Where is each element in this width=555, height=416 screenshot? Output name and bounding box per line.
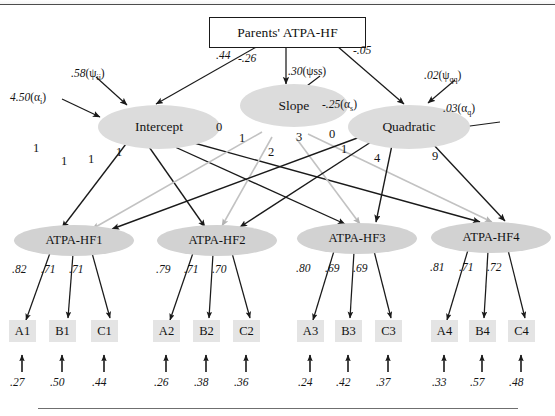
residual-a1: .27 bbox=[10, 377, 24, 389]
indicator-a1-label: A1 bbox=[15, 325, 30, 338]
loading-quadratic-1: 0 bbox=[329, 128, 335, 141]
indicator-a1[interactable]: A1 bbox=[9, 320, 36, 342]
indicator-c4[interactable]: C4 bbox=[508, 320, 535, 342]
mean-label-alpha-i: 4.50(αi) bbox=[10, 92, 46, 106]
loading-intercept-2: 1 bbox=[61, 155, 67, 168]
latent-intercept[interactable]: Intercept bbox=[98, 105, 220, 149]
residual-b4: .57 bbox=[470, 377, 484, 389]
psi-ii-value: .58 bbox=[71, 67, 85, 79]
factor-atpa-hf4[interactable]: ATPA-HF4 bbox=[431, 222, 551, 253]
indicator-b4-label: B4 bbox=[475, 325, 490, 338]
factor-loading-hf3-b: .69 bbox=[325, 263, 339, 275]
factor-loading-hf2-a: .79 bbox=[156, 264, 170, 276]
indicator-b2[interactable]: B2 bbox=[193, 320, 220, 342]
sem-path-diagram: Parents' ATPA-HF Intercept Slope Quadrat… bbox=[0, 0, 555, 416]
factor-atpa-hf1-label: ATPA-HF1 bbox=[46, 234, 103, 247]
indicator-c1[interactable]: C1 bbox=[91, 320, 118, 342]
variance-label-psi-qq: .02(ψqq) bbox=[424, 70, 461, 84]
indicator-b1[interactable]: B1 bbox=[49, 320, 76, 342]
indicator-a2-label: A2 bbox=[159, 325, 174, 338]
loading-quadratic-4: 9 bbox=[432, 150, 438, 163]
loading-quadratic-3: 4 bbox=[374, 152, 380, 165]
psi-qq-value: .02 bbox=[424, 69, 438, 81]
path-label-parents-to-intercept: .44 bbox=[216, 50, 230, 62]
indicator-a3[interactable]: A3 bbox=[297, 320, 324, 342]
loading-quadratic-2: 1 bbox=[341, 143, 347, 156]
loading-intercept-3: 1 bbox=[88, 153, 94, 166]
loading-slope-4: 3 bbox=[296, 131, 302, 144]
residual-b1: .50 bbox=[50, 377, 64, 389]
indicator-a2[interactable]: A2 bbox=[153, 320, 180, 342]
indicator-a4-label: A4 bbox=[437, 325, 452, 338]
indicator-c2[interactable]: C2 bbox=[233, 320, 260, 342]
indicator-c4-label: C4 bbox=[514, 325, 529, 338]
residual-b2: .38 bbox=[194, 377, 208, 389]
variance-label-psi-ii: .58(ψii) bbox=[71, 68, 105, 82]
factor-atpa-hf2[interactable]: ATPA-HF2 bbox=[157, 225, 277, 256]
factor-loading-hf1-b: .71 bbox=[41, 264, 55, 276]
factor-loading-hf3-a: .80 bbox=[296, 263, 310, 275]
exogenous-label: Parents' ATPA-HF bbox=[237, 26, 338, 40]
residual-a4: .33 bbox=[432, 377, 446, 389]
factor-atpa-hf4-label: ATPA-HF4 bbox=[463, 231, 520, 244]
diagram-edges bbox=[0, 0, 555, 416]
factor-atpa-hf3[interactable]: ATPA-HF3 bbox=[297, 223, 417, 254]
latent-slope-label: Slope bbox=[279, 99, 310, 113]
factor-atpa-hf1[interactable]: ATPA-HF1 bbox=[14, 225, 134, 256]
mean-label-alpha-q: .03(αq) bbox=[443, 103, 475, 117]
factor-loading-hf4-c: .72 bbox=[487, 262, 501, 274]
indicator-c3[interactable]: C3 bbox=[375, 320, 402, 342]
exogenous-parents-atpa-hf[interactable]: Parents' ATPA-HF bbox=[209, 17, 366, 48]
factor-loading-hf1-c: .71 bbox=[69, 264, 83, 276]
residual-c4: .48 bbox=[509, 377, 523, 389]
indicator-b3-label: B3 bbox=[341, 325, 356, 338]
path-label-parents-to-quadratic: -.05 bbox=[353, 45, 371, 57]
residual-c1: .44 bbox=[92, 377, 106, 389]
residual-a2: .26 bbox=[154, 377, 168, 389]
alpha-q-value: .03 bbox=[443, 102, 457, 114]
indicator-b2-label: B2 bbox=[199, 325, 214, 338]
indicator-b1-label: B1 bbox=[55, 325, 70, 338]
residual-b3: .42 bbox=[336, 377, 350, 389]
latent-quadratic-label: Quadratic bbox=[382, 120, 435, 134]
factor-loading-hf3-c: .69 bbox=[353, 263, 367, 275]
alpha-i-value: 4.50 bbox=[10, 91, 30, 103]
loading-slope-3: 2 bbox=[268, 146, 274, 159]
factor-atpa-hf3-label: ATPA-HF3 bbox=[329, 232, 386, 245]
indicator-a3-label: A3 bbox=[303, 325, 318, 338]
path-label-parents-to-slope: -.26 bbox=[238, 53, 256, 65]
indicator-c2-label: C2 bbox=[239, 325, 254, 338]
factor-loading-hf2-c: .70 bbox=[212, 264, 226, 276]
indicator-b3[interactable]: B3 bbox=[335, 320, 362, 342]
factor-loading-hf4-a: .81 bbox=[430, 262, 444, 274]
mean-label-alpha-s: -.25(αs) bbox=[322, 99, 357, 113]
indicator-c1-label: C1 bbox=[97, 325, 112, 338]
residual-c3: .37 bbox=[376, 377, 390, 389]
residual-c2: .36 bbox=[234, 377, 248, 389]
loading-intercept-1: 1 bbox=[33, 142, 39, 155]
indicator-c3-label: C3 bbox=[381, 325, 396, 338]
factor-loading-hf1-a: .82 bbox=[12, 264, 26, 276]
psi-ss-value: .30 bbox=[288, 65, 302, 77]
factor-atpa-hf2-label: ATPA-HF2 bbox=[189, 234, 246, 247]
residual-a3: .24 bbox=[298, 377, 312, 389]
factor-loading-hf4-b: .71 bbox=[459, 262, 473, 274]
indicator-b4[interactable]: B4 bbox=[469, 320, 496, 342]
loading-slope-1: 0 bbox=[216, 121, 222, 134]
variance-label-psi-ss: .30(ψss) bbox=[288, 66, 326, 78]
factor-loading-hf2-b: .71 bbox=[184, 264, 198, 276]
loading-intercept-4: 1 bbox=[116, 146, 122, 159]
latent-intercept-label: Intercept bbox=[135, 120, 183, 134]
loading-slope-2: 1 bbox=[239, 132, 245, 145]
indicator-a4[interactable]: A4 bbox=[431, 320, 458, 342]
alpha-s-value: -.25 bbox=[322, 98, 340, 110]
